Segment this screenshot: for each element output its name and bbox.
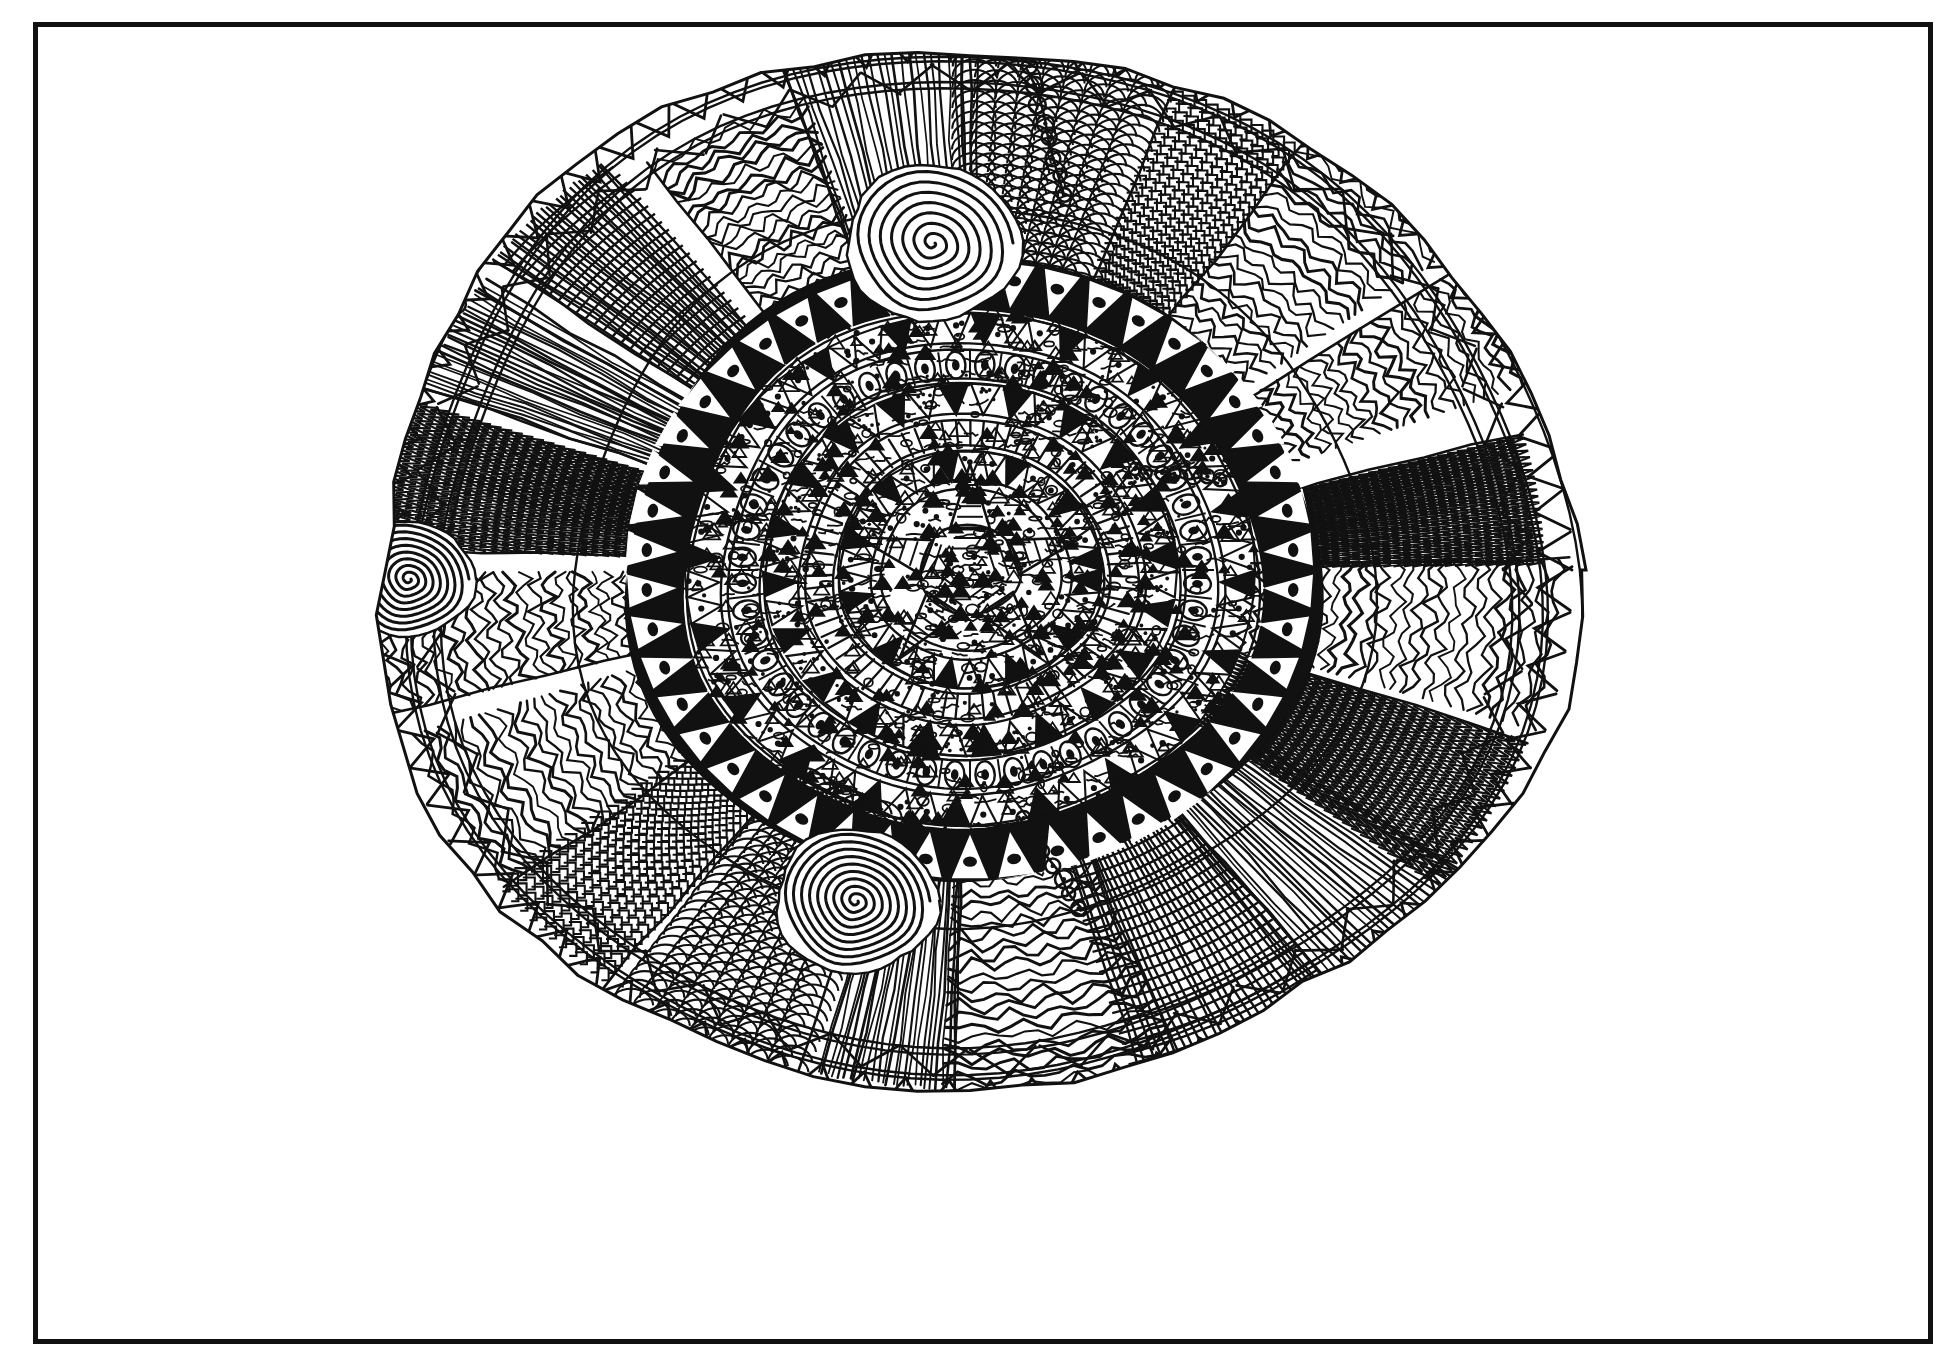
drawing-canvas bbox=[38, 27, 1928, 1339]
artwork-frame bbox=[33, 22, 1933, 1344]
artboard: Concentric Ink Mandala pen and ink line … bbox=[0, 0, 1954, 1364]
mandala-drawing bbox=[38, 27, 1928, 1339]
